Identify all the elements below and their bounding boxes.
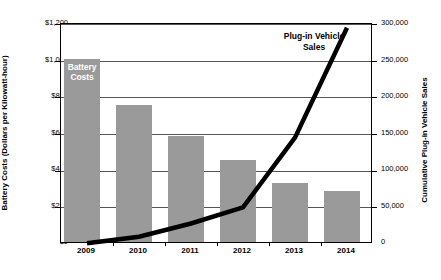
right-tick-label: 300,000 (381, 19, 408, 27)
right-tick-label: 200,000 (381, 92, 408, 100)
x-tick-label-2013: 2013 (268, 246, 320, 255)
x-tick-label-2010: 2010 (112, 246, 164, 255)
x-tick-label-2012: 2012 (216, 246, 268, 255)
right-tick-label: 100,000 (381, 165, 408, 173)
sales-annotation-line2: Sales (303, 42, 325, 52)
right-axis-title: Cumulative Plug-in Vehicle Sales (420, 77, 429, 202)
left-axis-title: Battery Costs (Dollars per Kilowatt-hour… (0, 55, 9, 210)
right-tick-label: 150,000 (381, 129, 408, 137)
x-tick-label-2011: 2011 (164, 246, 216, 255)
plot-area: Battery Costs (60, 23, 372, 243)
right-tick-label: 50,000 (381, 202, 404, 210)
x-tick-label-2009: 2009 (60, 246, 112, 255)
x-tick-label-2014: 2014 (320, 246, 372, 255)
right-tick-label: 250,000 (381, 56, 408, 64)
chart-container: Battery Costs (Dollars per Kilowatt-hour… (0, 0, 441, 280)
plug-in-vehicle-sales-line (61, 24, 373, 244)
sales-annotation-line1: Plug-in Vehicle (284, 31, 344, 41)
plug-in-vehicle-sales-annotation: Plug-in Vehicle Sales (266, 31, 362, 53)
right-tick-label: 0 (381, 238, 385, 246)
